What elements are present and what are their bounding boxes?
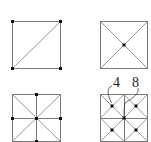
node <box>59 117 62 120</box>
panel-1-diagonal <box>13 22 61 69</box>
subdivision-diagram: 4 8 <box>0 0 151 142</box>
node <box>11 117 14 120</box>
panel-1 <box>11 20 62 70</box>
node <box>59 20 62 23</box>
node <box>123 44 126 47</box>
node <box>135 129 138 132</box>
panel-3 <box>11 93 62 142</box>
node <box>135 105 138 108</box>
node <box>35 117 38 120</box>
node <box>111 129 114 132</box>
node <box>59 67 62 70</box>
panel-4: 4 8 <box>101 75 148 142</box>
node <box>35 140 38 142</box>
panel-2 <box>101 22 148 69</box>
node <box>11 20 14 23</box>
node-4 <box>111 105 114 108</box>
label-4: 4 <box>113 75 120 90</box>
node <box>35 93 38 96</box>
label-8: 8 <box>132 75 139 90</box>
node-8 <box>123 117 126 120</box>
node <box>11 67 14 70</box>
